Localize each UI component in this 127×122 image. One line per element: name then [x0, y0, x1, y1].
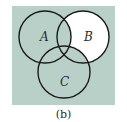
label-a: A — [39, 30, 49, 44]
label-c: C — [60, 75, 69, 89]
venn-diagram: A B C (b) — [0, 0, 127, 122]
figure-caption: (b) — [56, 108, 72, 121]
label-b: B — [83, 30, 93, 44]
